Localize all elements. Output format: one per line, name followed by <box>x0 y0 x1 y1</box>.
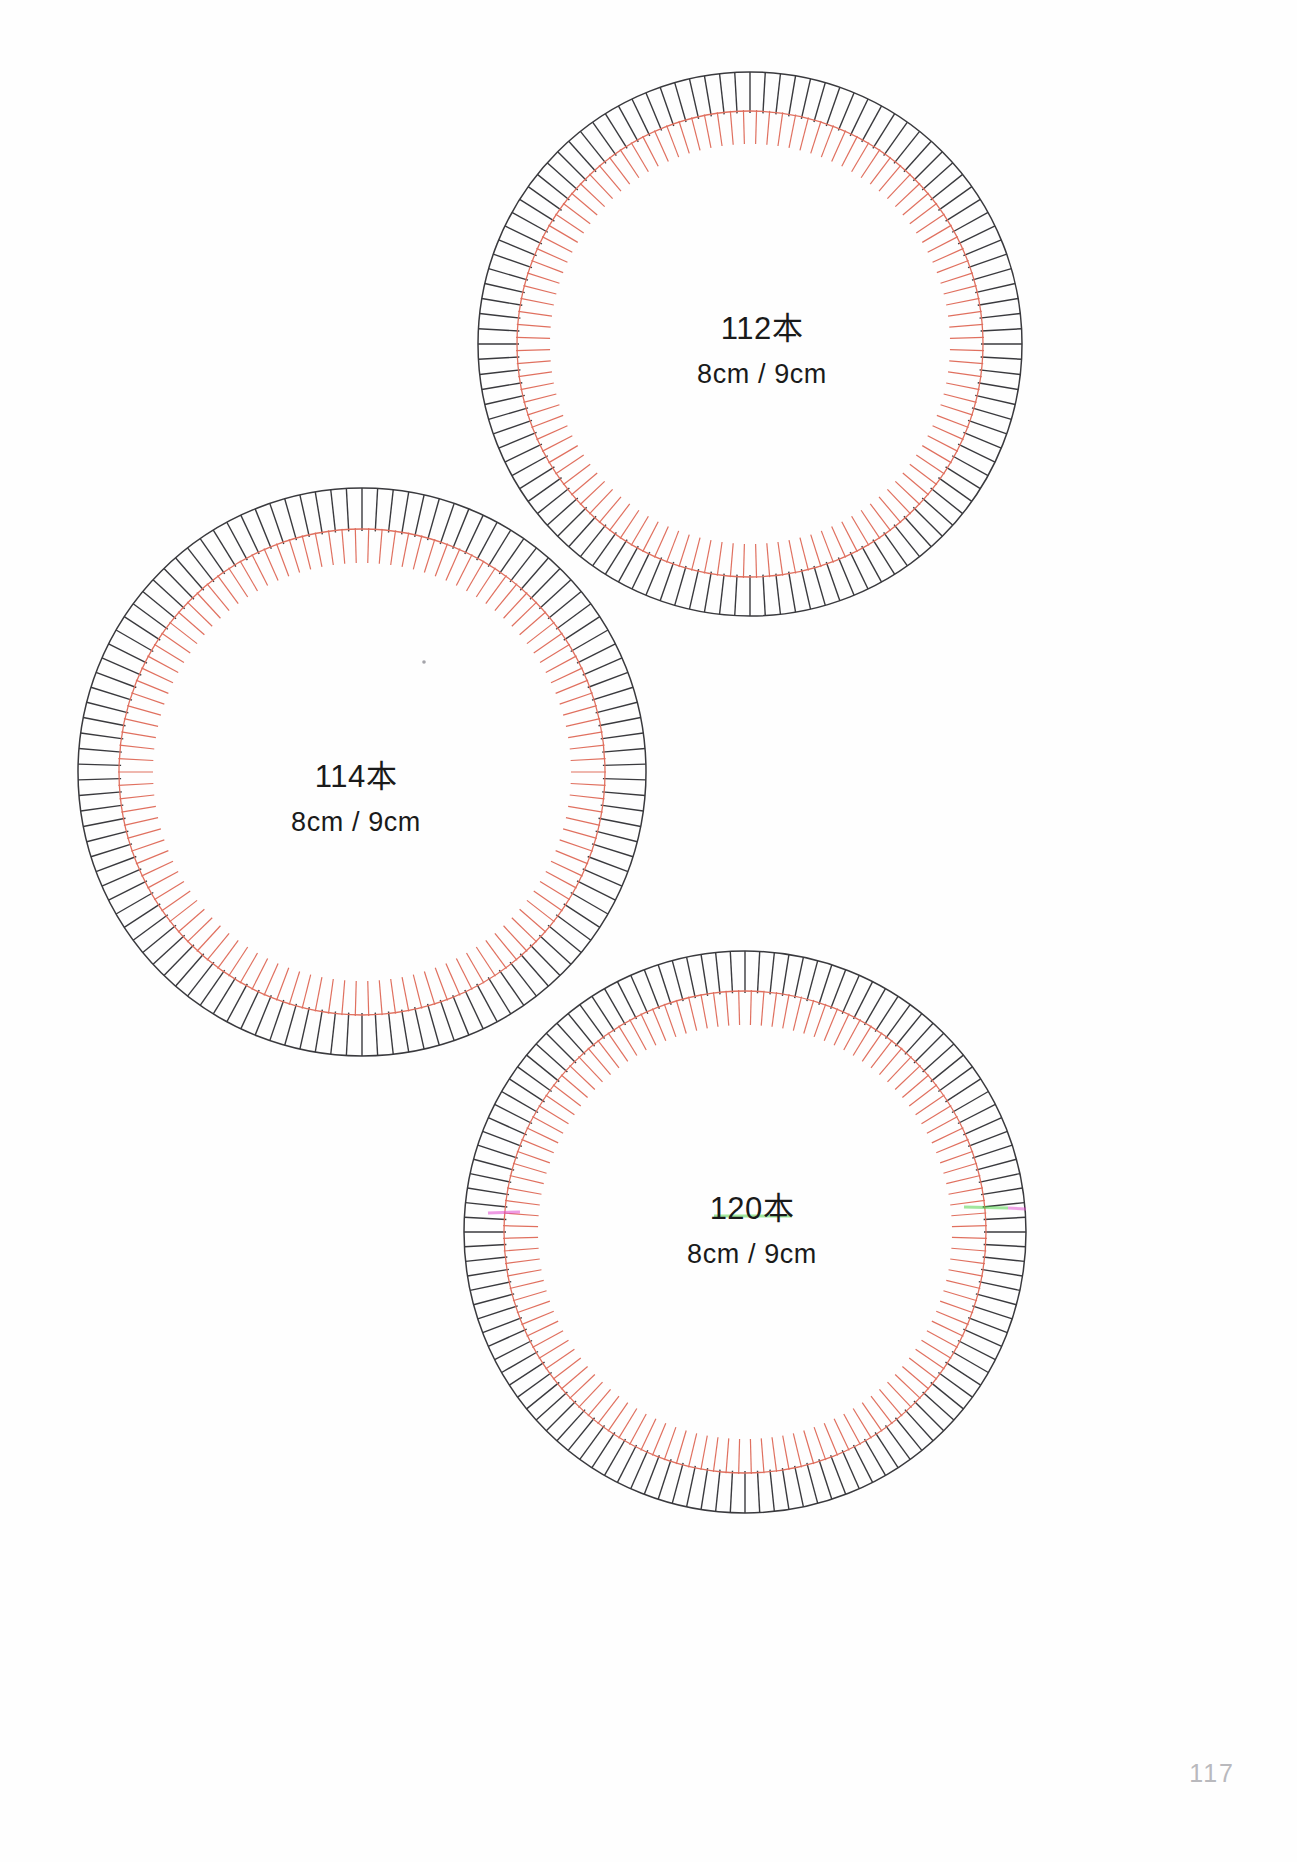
outer-tick <box>968 1318 1007 1333</box>
inner-tick <box>505 1200 540 1205</box>
inner-tick <box>521 1139 553 1152</box>
inner-tick <box>620 149 639 177</box>
outer-tick <box>603 764 646 765</box>
inner-tick <box>667 531 679 563</box>
inner-tick <box>571 759 606 761</box>
inner-tick <box>951 1248 986 1251</box>
outer-tick <box>91 687 132 700</box>
outer-tick <box>842 1450 859 1488</box>
outer-tick <box>346 1013 348 1056</box>
inner-tick <box>527 1128 559 1143</box>
inner-tick <box>641 1014 656 1046</box>
scan-color-fringe <box>1008 1208 1026 1209</box>
outer-tick <box>440 503 454 544</box>
inner-tick <box>811 535 821 567</box>
inner-tick <box>927 1117 958 1134</box>
inner-tick <box>560 840 593 851</box>
outer-tick <box>795 1466 804 1507</box>
outer-tick <box>493 254 532 268</box>
inner-tick <box>631 142 648 171</box>
outer-tick <box>78 764 121 765</box>
outer-tick <box>735 72 737 113</box>
inner-tick <box>521 298 554 305</box>
inner-tick <box>551 668 583 683</box>
inner-tick <box>664 1427 676 1460</box>
inner-tick <box>652 1008 665 1040</box>
outer-tick <box>91 844 132 857</box>
outer-tick <box>826 562 840 601</box>
outer-tick <box>675 83 686 122</box>
inner-tick <box>507 1188 541 1194</box>
inner-tick <box>804 1430 814 1464</box>
outer-tick <box>546 1033 576 1063</box>
inner-tick <box>940 1301 973 1313</box>
inner-tick <box>844 1019 861 1050</box>
outer-tick <box>658 1459 671 1499</box>
wheel-count-120: 120本 <box>592 1188 912 1230</box>
outer-tick <box>807 961 818 1002</box>
outer-tick <box>730 1471 732 1513</box>
outer-tick <box>952 456 988 476</box>
outer-tick <box>972 269 1011 280</box>
inner-tick <box>154 644 184 662</box>
outer-tick <box>116 630 153 652</box>
outer-tick <box>716 953 720 995</box>
inner-tick <box>505 1259 540 1264</box>
outer-tick <box>241 990 259 1029</box>
outer-tick <box>958 1104 995 1123</box>
outer-tick <box>285 1004 297 1045</box>
inner-tick <box>743 544 744 578</box>
inner-tick <box>252 554 268 585</box>
inner-tick <box>750 1439 751 1474</box>
inner-tick <box>778 542 783 576</box>
outer-tick <box>592 687 633 700</box>
inner-tick <box>446 549 460 581</box>
outer-tick <box>577 644 615 663</box>
outer-tick <box>495 1104 532 1123</box>
outer-tick <box>81 733 124 739</box>
inner-tick <box>154 881 184 899</box>
outer-tick <box>331 490 336 533</box>
outer-tick <box>701 954 708 995</box>
inner-tick <box>814 1004 826 1037</box>
inner-tick <box>793 1433 801 1467</box>
outer-tick <box>980 370 1021 375</box>
inner-tick <box>136 680 168 693</box>
outer-tick <box>758 1471 760 1513</box>
outer-tick <box>658 965 671 1005</box>
outer-tick <box>601 805 644 811</box>
inner-tick <box>556 851 588 864</box>
inner-tick <box>532 1117 563 1134</box>
outer-tick <box>601 733 644 739</box>
inner-tick <box>804 1000 814 1034</box>
inner-tick <box>546 656 577 673</box>
outer-tick <box>346 488 348 531</box>
wheel-size-120: 8cm / 9cm <box>592 1236 912 1272</box>
outer-tick <box>605 114 627 149</box>
inner-tick <box>264 549 278 581</box>
inner-tick <box>927 1331 958 1348</box>
inner-tick <box>814 1427 826 1460</box>
inner-tick <box>756 110 757 144</box>
outer-tick <box>958 1341 995 1360</box>
inner-tick <box>531 261 563 273</box>
inner-tick <box>521 383 554 390</box>
outer-tick <box>300 495 309 537</box>
outer-tick <box>984 1217 1026 1219</box>
outer-tick <box>499 432 537 448</box>
inner-tick <box>368 528 369 563</box>
outer-tick <box>675 566 686 605</box>
outer-tick <box>687 1466 696 1507</box>
outer-tick <box>801 79 810 119</box>
outer-tick <box>735 575 737 616</box>
inner-tick <box>654 527 668 558</box>
outer-tick <box>477 522 497 560</box>
inner-tick <box>800 117 808 150</box>
inner-tick <box>946 298 979 305</box>
outer-tick <box>770 953 774 995</box>
inner-tick <box>932 1128 964 1143</box>
inner-tick <box>264 963 278 995</box>
inner-tick <box>679 121 689 153</box>
inner-tick <box>571 784 606 786</box>
outer-tick <box>979 1282 1020 1291</box>
